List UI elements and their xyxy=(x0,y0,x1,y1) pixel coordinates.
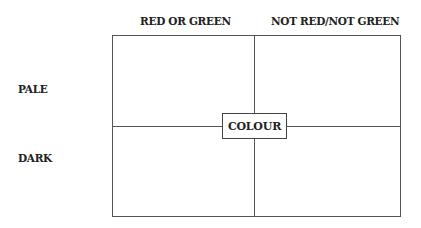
column-header-not-red-not-green: NOT RED/NOT GREEN xyxy=(271,15,399,27)
row-header-pale: PALE xyxy=(18,83,47,95)
row-header-dark: DARK xyxy=(18,152,52,164)
column-header-red-or-green: RED OR GREEN xyxy=(140,15,231,27)
center-label-box: COLOUR xyxy=(222,113,287,139)
center-label: COLOUR xyxy=(228,120,281,133)
